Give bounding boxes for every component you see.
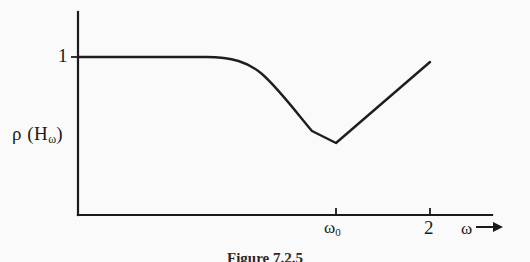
figure-caption: Figure 7.2.5 <box>0 249 530 262</box>
x-tick-label-omega0-base: ω <box>324 218 335 237</box>
x-tick-label-omega0: ω0 <box>324 219 341 238</box>
y-axis-label-close: ) <box>56 123 63 144</box>
x-axis-label: ω <box>461 220 472 237</box>
y-axis-label: ρ (Hω) <box>12 124 63 145</box>
data-curve <box>78 57 430 143</box>
plot-area <box>0 0 530 262</box>
x-axis-arrow-head <box>493 222 503 232</box>
y-axis-label-subscript: ω <box>48 132 56 146</box>
x-tick-label-omega0-subscript: 0 <box>335 226 341 238</box>
figure-container: 1 ρ (Hω) ω0 2 ω Figure 7.2.5 <box>0 0 530 262</box>
y-axis-label-main: ρ (H <box>12 123 48 144</box>
x-tick-label-2: 2 <box>424 218 434 237</box>
y-tick-label-1: 1 <box>58 46 68 65</box>
